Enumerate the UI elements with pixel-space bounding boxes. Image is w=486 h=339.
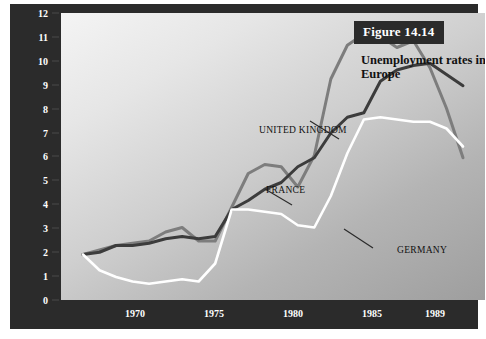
y-tick-label: 5: [30, 175, 48, 186]
y-tick-label: 4: [30, 199, 48, 210]
y-tick-label: 6: [30, 151, 48, 162]
y-tick-mark: [52, 155, 59, 157]
y-tick-mark: [52, 12, 59, 14]
y-tick-mark: [52, 179, 59, 181]
y-tick-label: 1: [30, 270, 48, 281]
figure-title: Unemployment rates in Western Europe: [361, 53, 485, 81]
y-tick-label: 9: [30, 79, 48, 90]
plot-area: Figure 14.14 Unemployment rates in Weste…: [61, 13, 485, 300]
y-tick-mark: [52, 251, 59, 253]
chart-frame: 12 11 10 9 8 7 6 5 4 3 2 1 0 1970 1975 1…: [10, 4, 478, 329]
x-tick-label: 1980: [283, 308, 303, 319]
y-tick-mark: [52, 299, 59, 301]
x-tick-label: 1985: [362, 308, 382, 319]
y-tick-mark: [52, 275, 59, 277]
y-tick-mark: [52, 60, 59, 62]
figure-unemployment-western-europe: Unemployment rate (in %) 12 11 10 9 8 7 …: [0, 0, 486, 339]
y-tick-mark: [52, 132, 59, 134]
x-tick-label: 1989: [425, 308, 445, 319]
y-tick-label: 2: [30, 247, 48, 258]
y-tick-mark: [52, 36, 59, 38]
y-tick-label: 3: [30, 223, 48, 234]
y-tick-mark: [52, 203, 59, 205]
y-tick-label: 11: [30, 31, 48, 42]
figure-number-badge: Figure 14.14: [354, 21, 444, 44]
series-label-united-kingdom: UNITED KINGDOM: [259, 125, 347, 135]
y-tick-mark: [52, 108, 59, 110]
series-label-france: FRANCE: [266, 185, 305, 195]
y-tick-label: 0: [30, 294, 48, 305]
y-tick-mark: [52, 84, 59, 86]
series-label-germany: GERMANY: [397, 245, 447, 255]
x-tick-label: 1970: [125, 308, 145, 319]
y-tick-label: 8: [30, 103, 48, 114]
y-tick-mark: [52, 227, 59, 229]
y-tick-label: 10: [30, 55, 48, 66]
x-tick-label: 1975: [204, 308, 224, 319]
y-tick-label: 7: [30, 127, 48, 138]
y-tick-label: 12: [30, 8, 48, 19]
